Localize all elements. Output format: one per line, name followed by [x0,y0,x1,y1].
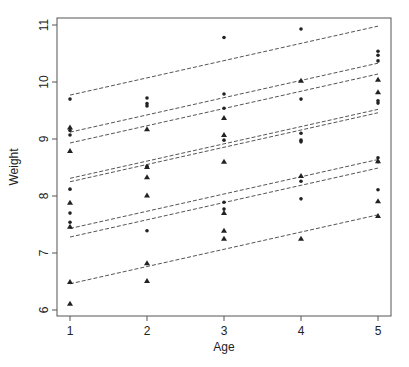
circle-marker [299,179,303,183]
triangle-marker [221,115,227,120]
circle-marker [222,106,226,110]
circle-marker [145,96,149,100]
triangle-marker [298,78,304,83]
triangle-marker [375,89,381,94]
circle-marker [145,104,149,108]
y-axis: 67891011 [37,18,57,313]
triangle-marker [144,278,150,283]
triangle-marker [67,301,73,306]
y-tick-label: 9 [37,135,51,142]
fitted-line [70,113,378,182]
x-tick-label: 2 [144,324,151,338]
triangle-marker [67,125,73,130]
x-tick-label: 4 [298,324,305,338]
circle-marker [68,220,72,224]
triangle-marker [221,159,227,164]
circle-marker [299,27,303,31]
fitted-line [70,160,378,229]
y-tick-label: 6 [37,306,51,313]
circle-marker [299,132,303,136]
triangle-marker [144,164,150,169]
circle-marker [299,197,303,201]
fitted-line [70,215,378,284]
triangle-marker [375,77,381,82]
y-tick-label: 7 [37,249,51,256]
triangle-marker [144,126,150,131]
circle-marker [145,229,149,233]
circle-marker [222,200,226,204]
circle-marker [222,138,226,142]
y-axis-title: Weight [7,148,21,186]
triangle-marker [375,198,381,203]
y-tick-label: 8 [37,192,51,199]
triangle-marker [221,210,227,215]
circle-marker [222,36,226,40]
triangle-marker [67,200,73,205]
circle-marker [376,49,380,53]
triangle-marker [221,228,227,233]
plot-frame [57,18,391,316]
fitted-line [70,63,378,132]
circle-marker [299,140,303,144]
circle-marker [68,187,72,191]
triangle-marker [375,158,381,163]
x-tick-label: 5 [375,324,382,338]
circle-marker [299,97,303,101]
circle-marker [376,101,380,105]
data-points [67,27,381,306]
x-axis: 12345 [67,316,382,338]
circle-marker [68,97,72,101]
circle-marker [376,59,380,63]
triangle-marker [298,236,304,241]
triangle-marker [67,224,73,229]
triangle-marker [144,192,150,197]
circle-marker [222,92,226,96]
triangle-marker [298,173,304,178]
circle-marker [376,53,380,57]
triangle-marker [144,260,150,265]
circle-marker [68,133,72,137]
x-tick-label: 3 [221,324,228,338]
triangle-marker [67,279,73,284]
triangle-marker [221,236,227,241]
y-tick-label: 11 [37,18,51,31]
circle-marker [376,188,380,192]
x-tick-label: 1 [67,324,74,338]
triangle-marker [221,132,227,137]
y-tick-label: 10 [37,75,51,89]
circle-marker [68,211,72,215]
x-axis-title: Age [213,340,235,354]
fitted-lines [70,26,378,284]
triangle-marker [67,148,73,153]
scatter-chart: 67891011 12345 Age Weight [0,0,409,367]
triangle-marker [144,174,150,179]
